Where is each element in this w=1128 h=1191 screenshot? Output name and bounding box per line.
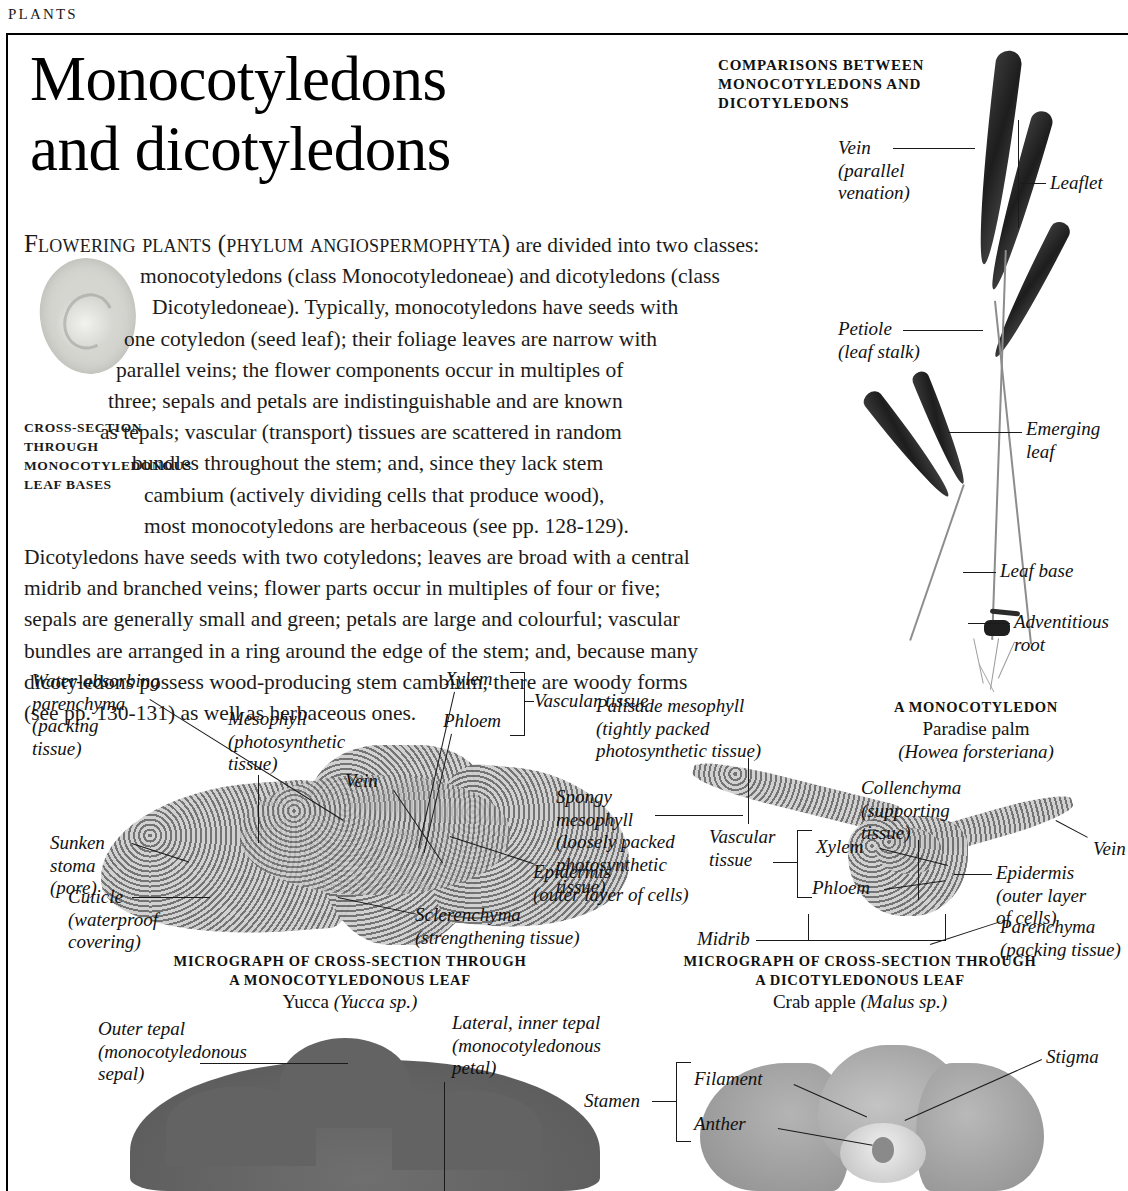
palm-caption: A MONOCOTYLEDON Paradise palm (Howea for… [846,698,1106,763]
bracket-leaflet [960,120,1019,228]
leader-palisade [748,758,749,824]
leader-leaflet [1020,183,1046,184]
label-outer-tepal: Outer tepal (monocotyledonous sepal) [98,1018,247,1086]
label-lateral-inner-tepal: Lateral, inner tepal (monocotyledonous p… [452,1012,601,1080]
label-petiole: Petiole (leaf stalk) [838,318,920,363]
dicot-flower-image [700,1045,1040,1191]
intro-line: most monocotyledons are herbaceous (see … [24,511,746,542]
intro-line: Dicotyledoneae). Typically, monocotyledo… [24,292,746,323]
dicot-caption-line1: MICROGRAPH OF CROSS-SECTION THROUGH [684,953,1037,969]
label-phloem-dicot: Phloem [812,877,870,900]
mono-caption-line2: A MONOCOTYLEDONOUS LEAF [229,972,471,988]
leader-petiole [903,330,983,331]
leader-epidermis-dicot [954,874,992,875]
leader-vascular-tissue-mono [524,701,534,702]
label-mesophyll: Mesophyll (photosynthetic tissue) [228,708,345,776]
label-adventitious-root: Adventitious root [1014,611,1109,656]
mono-caption-species: Yucca (Yucca sp.) [140,990,560,1013]
label-phloem-mono: Phloem [443,710,501,733]
dicot-micrograph-caption: MICROGRAPH OF CROSS-SECTION THROUGH A DI… [640,952,1080,1013]
palm-caption-common-name: Paradise palm [846,717,1106,740]
mono-caption-line1: MICROGRAPH OF CROSS-SECTION THROUGH [174,953,527,969]
leader-leaf-base [963,572,996,573]
intro-line: monocotyledons (class Monocotyledoneae) … [24,261,746,292]
bracket-vascular-tissue-mono [510,672,525,736]
bracket-vascular-tissue-dicot [797,830,812,898]
page: PLANTS Monocotyledons and dicotyledons C… [0,0,1128,1191]
leader-mesophyll [258,775,259,843]
leader-midrib [756,940,808,941]
intro-line: sepals are generally small and green; pe… [24,604,746,635]
mono-micrograph-caption: MICROGRAPH OF CROSS-SECTION THROUGH A MO… [140,952,560,1013]
bracket-stamen [676,1062,691,1142]
intro-line: parallel veins; the flower components oc… [24,355,746,386]
label-sclerenchyma: Sclerenchyma (strengthening tissue) [415,904,579,949]
label-vein-mono: Vein [345,770,378,793]
bracket-midrib [808,914,946,941]
intro-line: bundles are arranged in a ring around th… [24,636,746,667]
intro-line: Dicotyledons have seeds with two cotyled… [24,542,746,573]
leader-stamen [652,1101,676,1102]
label-anther: Anther [694,1113,746,1136]
intro-line: bundles throughout the stem; and, since … [24,448,746,479]
leader-cuticle [132,897,210,898]
label-leaflet: Leaflet [1050,172,1103,195]
label-collenchyma: Collenchyma (supporting tissue) [861,777,961,845]
label-midrib: Midrib [697,928,750,951]
leader-spongy [655,815,743,816]
label-xylem-mono: Xylem [445,668,492,691]
label-vein-dicot: Vein [1093,838,1126,861]
palm-caption-species: (Howea forsteriana) [846,740,1106,763]
leader-adventitious-root [968,623,1010,624]
label-emerging-leaf: Emerging leaf [1026,418,1100,463]
intro-line: three; sepals and petals are indistingui… [24,386,746,417]
label-water-absorbing-parenchyma: Water-absorbing parenchyma (packing tiss… [32,670,160,760]
dicot-caption-species: Crab apple (Malus sp.) [640,990,1080,1013]
leader-vascular-tissue-dicot [773,862,797,863]
leader-emerging-leaf [948,432,1022,433]
palm-caption-title: A MONOCOTYLEDON [894,699,1058,715]
label-filament: Filament [694,1068,763,1091]
label-xylem-dicot: Xylem [816,836,863,859]
label-leaf-base: Leaf base [1000,560,1073,583]
intro-line: as tepals; vascular (transport) tissues … [24,417,746,448]
label-spongy-mesophyll: Spongy mesophyll (loosely packed photosy… [556,786,675,899]
leader-lateral-inner-tepal [444,1082,445,1191]
intro-line: Flowering plants (phylum angiospermophyt… [24,228,746,261]
intro-lead-smallcaps: Flowering plants (phylum angiospermophyt… [24,230,510,257]
intro-line: midrib and branched veins; flower parts … [24,573,746,604]
intro-body-text: Flowering plants (phylum angiospermophyt… [24,228,746,729]
label-stamen: Stamen [584,1090,640,1113]
leader-collenchyma [918,840,919,900]
dicot-caption-line2: A DICOTYLEDONOUS LEAF [755,972,965,988]
left-margin-rule [6,33,8,1191]
label-stigma: Stigma [1046,1046,1099,1069]
label-vascular-tissue-dicot: Vascular tissue [709,826,776,871]
page-title: Monocotyledons and dicotyledons [30,44,451,184]
header-rule [6,33,1128,35]
label-palisade-mesophyll: Palisade mesophyll (tightly packed photo… [596,695,761,763]
running-head: PLANTS [8,6,78,23]
leader-outer-tepal [200,1063,348,1064]
intro-line: one cotyledon (seed leaf); their foliage… [24,324,746,355]
intro-line: cambium (actively dividing cells that pr… [24,480,746,511]
